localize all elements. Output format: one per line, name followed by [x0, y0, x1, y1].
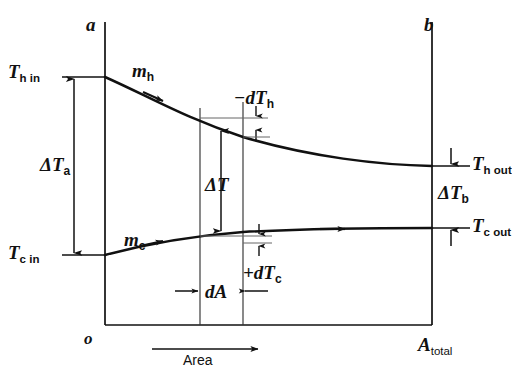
label-hot-stream-symbol: m — [132, 60, 147, 81]
label-hot-stream-subscript: h — [147, 70, 154, 84]
label-delta-tb: ΔTb — [438, 183, 469, 205]
label-hot-out-symbol: T — [472, 153, 484, 174]
label-cold-in: Tc in — [8, 243, 39, 266]
cold-out-tick-rule — [432, 228, 470, 246]
label-hot-out: Th out — [472, 154, 512, 177]
label-cold-stream-symbol: m — [124, 229, 139, 250]
label-d-cold-symbol: +dT — [243, 262, 275, 283]
cold-stream-curve — [105, 228, 432, 255]
label-hot-out-subscript: h out — [484, 164, 512, 176]
label-hot-in-subscript: h in — [20, 72, 40, 84]
label-hot-stream: mh — [132, 61, 154, 83]
label-hot-in: Th in — [8, 62, 40, 85]
label-cold-in-subscript: c in — [20, 253, 40, 265]
label-d-hot-subscript: h — [267, 97, 274, 111]
label-d-hot-symbol: −dT — [234, 87, 267, 108]
label-cold-out-subscript: c out — [484, 226, 511, 238]
label-area-total-subscript: total — [431, 345, 453, 357]
label-cold-stream: mc — [124, 230, 145, 252]
label-cold-out-symbol: T — [472, 215, 484, 236]
label-delta-ta-symbol: ΔT — [40, 154, 64, 175]
label-hot-in-symbol: T — [8, 61, 20, 82]
label-area-total-symbol: A — [418, 334, 431, 355]
label-cold-stream-subscript: c — [139, 239, 146, 253]
label-delta-t-mid: ΔT — [205, 175, 229, 194]
label-cold-out: Tc out — [472, 216, 511, 239]
label-d-hot: −dTh — [234, 88, 274, 110]
label-cold-in-symbol: T — [8, 242, 20, 263]
label-delta-tb-subscript: b — [462, 192, 469, 206]
axis-label-a: a — [86, 15, 96, 34]
label-delta-ta-subscript: a — [64, 164, 71, 178]
hot-out-tick-rule — [432, 148, 470, 166]
d-cold-detail — [200, 224, 272, 256]
label-d-cold-subscript: c — [275, 272, 282, 286]
label-area-total: Atotal — [418, 335, 452, 358]
label-d-area: dA — [205, 282, 227, 301]
axis-label-b: b — [424, 15, 434, 34]
label-d-cold: +dTc — [243, 263, 282, 285]
label-area-axis: Area — [183, 353, 213, 367]
label-delta-tb-symbol: ΔT — [438, 182, 462, 203]
label-delta-ta: ΔTa — [40, 155, 70, 177]
axis-label-origin: o — [84, 330, 93, 347]
